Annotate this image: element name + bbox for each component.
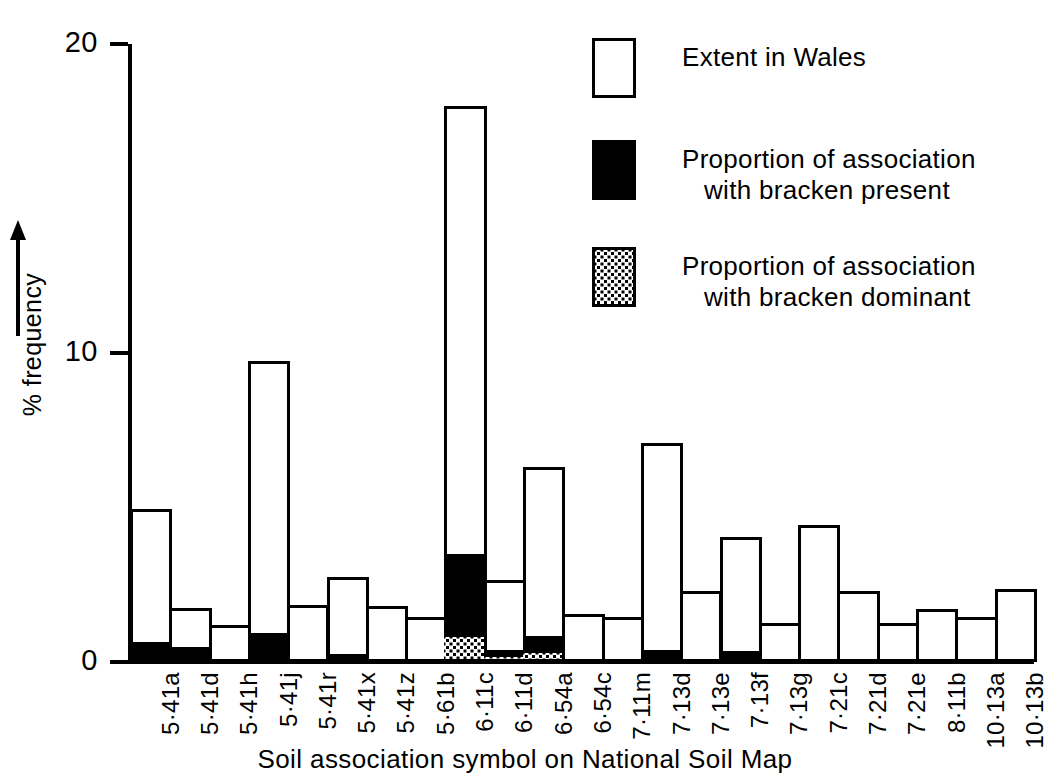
legend-item: Extent in Wales [592,38,1032,98]
x-axis-tick-label: 5·61b [434,672,458,735]
x-axis-tick-label: 7·21c [827,672,851,734]
bar [602,617,644,662]
bar [405,617,447,662]
bar [837,591,879,662]
bar [327,577,369,662]
bar-segment-bracken-present [130,642,172,659]
bar-segment-bracken-present [248,633,290,659]
x-axis-tick-label: 5·41z [394,672,418,734]
bar-segment-bracken-dominant [484,654,526,659]
x-axis-tick-label: 5·41j [277,672,301,727]
x-axis-tick-label: 7·11m [630,672,654,740]
bar [720,537,762,662]
x-axis-tick-label: 7·13e [709,672,733,735]
bar [877,623,919,662]
x-axis-tick-label: 5·41h [237,672,261,735]
x-axis-tick-label: 8·11b [945,672,969,733]
x-axis-tick-label: 5·41a [159,672,183,735]
bar [209,625,251,662]
y-axis-tick [110,42,128,46]
y-axis-tick [110,351,128,355]
bar [955,617,997,662]
x-axis-tick-label: 7·21e [905,672,929,735]
legend-label: Proportion of associationwith bracken pr… [682,140,976,205]
x-axis-tick-label: 10·13b [1023,672,1047,749]
x-axis-tick-label: 5·41x [355,672,379,734]
legend-label: Extent in Wales [682,38,866,73]
x-axis-tick-label: 10·13a [984,672,1008,749]
x-axis-tick-label: 7·13g [787,672,811,735]
bar [287,605,329,662]
x-axis-tick-label: 6·54a [552,672,576,735]
bar [680,591,722,662]
bar-segment-bracken-dominant [444,634,486,659]
bar [916,609,958,662]
x-axis-tick-label: 7·21d [866,672,890,735]
x-axis-tick-label: 6·11d [512,672,536,733]
legend-swatch-dominant [592,247,636,307]
y-axis-tick [110,660,128,664]
y-axis-tick-label: 0 [28,646,98,675]
bar-segment-bracken-dominant [523,650,565,659]
x-axis-title: Soil association symbol on National Soil… [0,744,1050,775]
x-axis-tick-label: 7·13d [670,672,694,735]
legend-item: Proportion of associationwith bracken do… [592,247,1032,312]
bar [798,525,840,663]
legend-item: Proportion of associationwith bracken pr… [592,140,1032,205]
bar-segment-bracken-present [327,654,369,659]
x-axis-tick-label: 7·13f [748,672,772,728]
x-axis-tick-label: 6·11c [473,672,497,732]
bar [523,467,565,662]
bar [759,623,801,662]
bar-segment-bracken-present [720,651,762,659]
bar-segment-bracken-present [169,647,211,659]
y-axis-tick-label: 20 [28,28,98,57]
bar [366,606,408,662]
legend-swatch-present [592,140,636,200]
legend-swatch-extent [592,38,636,98]
bar [130,509,172,662]
bar [995,589,1037,662]
chart-legend: Extent in WalesProportion of association… [592,38,1032,355]
y-axis-title: % frequency [18,195,47,495]
bar [641,443,683,662]
bar [444,106,486,662]
bar [484,580,526,662]
bar [169,608,211,662]
bar-segment-bracken-present [641,650,683,659]
x-axis-tick-label: 6·54c [591,672,615,734]
x-axis-tick-label: 5·41d [198,672,222,735]
x-axis-tick-label: 5·41r [316,672,340,730]
legend-label: Proportion of associationwith bracken do… [682,247,976,312]
bar-chart-figure: 01020 % frequency 5·41a5·41d5·41h5·41j5·… [0,0,1050,783]
bar [562,614,604,662]
bar [248,361,290,662]
